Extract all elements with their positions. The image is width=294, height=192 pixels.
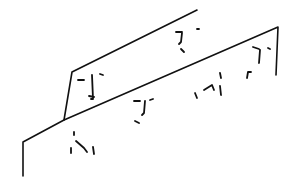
sketch-canvas [0, 0, 294, 192]
sketch-svg [0, 0, 294, 192]
sketch-background [0, 0, 294, 192]
